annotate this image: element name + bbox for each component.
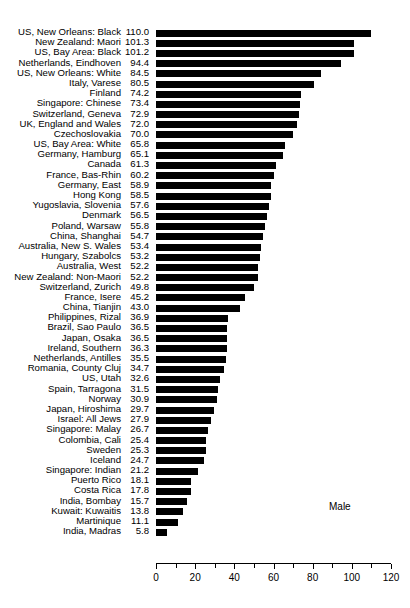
x-axis-minor-tick <box>332 564 333 568</box>
bar <box>156 223 265 230</box>
x-axis-minor-tick <box>215 564 216 568</box>
bar <box>156 396 217 403</box>
bar-category-label: Singapore: Malay <box>46 424 121 434</box>
bar <box>156 305 240 312</box>
bar <box>156 233 263 240</box>
bar-value-label: 26.7 <box>123 424 149 434</box>
bar-category-label: Singapore: Chinese <box>37 98 121 108</box>
bar-row: Germany, Hamburg65.1 <box>0 150 410 160</box>
x-axis-major-tick <box>234 564 235 569</box>
bar <box>156 457 204 464</box>
bar <box>156 121 297 128</box>
x-axis-tick-label: 100 <box>332 572 372 584</box>
bar <box>156 447 206 454</box>
x-axis-tick-label: 60 <box>254 572 294 584</box>
bar-rows-container: US, New Orleans: Black110.0New Zealand: … <box>0 28 410 537</box>
bar <box>156 417 211 424</box>
x-axis-major-tick <box>274 564 275 569</box>
x-axis-tick-label: 40 <box>214 572 254 584</box>
bar-category-label: Australia, West <box>57 261 121 271</box>
bar <box>156 244 261 251</box>
bar <box>156 498 187 505</box>
bar-row: Romania, County Cluj34.7 <box>0 364 410 374</box>
bar <box>156 325 227 332</box>
bar <box>156 152 283 159</box>
bar <box>156 376 220 383</box>
bar-chart: US, New Orleans: Black110.0New Zealand: … <box>0 0 410 608</box>
bar <box>156 508 183 515</box>
bar <box>156 254 260 261</box>
bar-row: US, New Orleans: White84.5 <box>0 69 410 79</box>
bar-row: Singapore: Indian21.2 <box>0 466 410 476</box>
x-axis-minor-tick <box>176 564 177 568</box>
x-axis-minor-tick <box>254 564 255 568</box>
bar <box>156 407 214 414</box>
bar-row: Yugoslavia, Slovenia57.6 <box>0 201 410 211</box>
bar <box>156 427 208 434</box>
bar <box>156 182 271 189</box>
bar <box>156 284 254 291</box>
bar-row: Colombia, Cali25.4 <box>0 436 410 446</box>
bar-row: Sweden25.3 <box>0 446 410 456</box>
bar <box>156 30 371 37</box>
bar <box>156 356 226 363</box>
bar <box>156 274 258 281</box>
bar <box>156 264 258 271</box>
bar <box>156 345 227 352</box>
x-axis-tick-label: 0 <box>136 572 176 584</box>
bar-row: India, Madras5.8 <box>0 527 410 537</box>
bar <box>156 437 206 444</box>
x-axis-major-tick <box>313 564 314 569</box>
bar-row: Germany, East58.9 <box>0 181 410 191</box>
bar <box>156 335 227 342</box>
bar <box>156 162 276 169</box>
bar <box>156 40 354 47</box>
bar-row: Martinique11.1 <box>0 517 410 527</box>
bar <box>156 386 218 393</box>
series-annotation-male: Male <box>329 501 351 513</box>
bar-category-label: India, Madras <box>63 526 121 536</box>
bar <box>156 50 354 57</box>
x-axis-tick-label: 80 <box>293 572 333 584</box>
bar-value-label: 52.2 <box>123 261 149 271</box>
x-axis-tick-label: 20 <box>175 572 215 584</box>
bar-row: France, Isere45.2 <box>0 293 410 303</box>
bar <box>156 101 300 108</box>
bar-row: Puerto Rico18.1 <box>0 476 410 486</box>
bar-row: Italy, Varese80.5 <box>0 79 410 89</box>
bar <box>156 111 299 118</box>
bar <box>156 142 285 149</box>
x-axis-major-tick <box>156 564 157 569</box>
x-axis-major-tick <box>391 564 392 569</box>
bar <box>156 366 224 373</box>
bar <box>156 468 198 475</box>
bar <box>156 213 267 220</box>
bar <box>156 294 245 301</box>
bar <box>156 81 314 88</box>
bar-row: Spain, Tarragona31.5 <box>0 385 410 395</box>
bar-row: Switzerland, Zurich49.8 <box>0 283 410 293</box>
bar <box>156 315 228 322</box>
bar <box>156 203 269 210</box>
bar-value-label: 5.8 <box>123 526 149 536</box>
x-axis-minor-tick <box>371 564 372 568</box>
bar <box>156 519 178 526</box>
x-axis-major-tick <box>195 564 196 569</box>
bar-value-label: 73.4 <box>123 98 149 108</box>
bar <box>156 529 167 536</box>
bar <box>156 488 191 495</box>
bar <box>156 60 341 67</box>
bar <box>156 172 274 179</box>
bar <box>156 193 271 200</box>
bar <box>156 478 191 485</box>
bar <box>156 70 321 77</box>
x-axis-major-tick <box>352 564 353 569</box>
bar <box>156 91 301 98</box>
x-axis-tick-label: 120 <box>371 572 410 584</box>
x-axis-minor-tick <box>293 564 294 568</box>
bar <box>156 131 293 138</box>
